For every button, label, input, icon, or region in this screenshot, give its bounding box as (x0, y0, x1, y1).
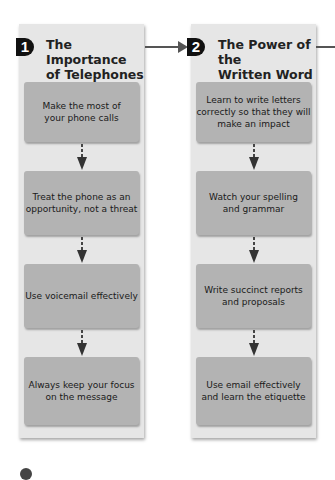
column-panel-2: 2 The Power of the Written Word Learn to… (191, 24, 316, 438)
down-arrow-icon (77, 144, 87, 170)
step-box: Make the most of your phone calls (24, 82, 139, 142)
down-arrow-icon (249, 237, 259, 263)
next-step-badge-fragment (20, 468, 32, 480)
column-title: The Power of the Written Word (218, 37, 316, 82)
step-number-badge: 1 (16, 38, 34, 56)
column-panel-1: 1 The Importance of Telephones Make the … (19, 24, 144, 438)
down-arrow-icon (249, 330, 259, 356)
column-title: The Importance of Telephones (46, 37, 144, 82)
step-box: Use voicemail effectively (24, 264, 139, 328)
step-box: Always keep your focus on the message (24, 357, 139, 425)
connector-line-out (316, 46, 335, 48)
down-arrow-icon (77, 237, 87, 263)
step-box: Use email effectively and learn the etiq… (196, 357, 311, 425)
step-box: Write succinct reports and proposals (196, 264, 311, 328)
step-box: Learn to write letters correctly so that… (196, 82, 311, 142)
step-box: Treat the phone as an opportunity, not a… (24, 171, 139, 235)
step-box: Watch your spelling and grammar (196, 171, 311, 235)
down-arrow-icon (77, 330, 87, 356)
step-number-badge: 2 (187, 38, 205, 56)
down-arrow-icon (249, 144, 259, 170)
